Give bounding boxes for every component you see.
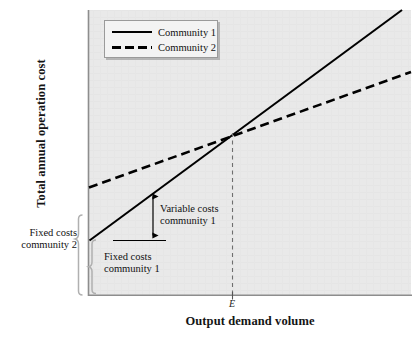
chart-legend: Community 1 Community 2: [104, 20, 218, 58]
annotation-variable-costs-line-1: Variable costs: [160, 203, 219, 215]
legend-item-community-2: Community 2: [112, 40, 216, 54]
annotation-fixed-costs-2-line-1: Fixed costs: [0, 227, 77, 239]
annotation-variable-costs-line-2: community 1: [160, 215, 219, 227]
annotation-fixed-costs-community-2: Fixed costs community 2: [0, 227, 77, 250]
annotation-fixed-costs-community-1: Fixed costs community 1: [104, 251, 160, 274]
legend-swatch-solid-line-icon: [112, 27, 152, 37]
legend-label-community-2: Community 2: [158, 42, 216, 53]
annotation-variable-costs: Variable costs community 1: [160, 203, 219, 226]
annotation-fixed-costs-1-line-2: community 1: [104, 263, 160, 275]
annotation-fixed-costs-2-line-2: community 2: [0, 239, 77, 251]
y-axis-title: Total annual operation cost: [34, 29, 49, 239]
legend-item-community-1: Community 1: [112, 25, 216, 39]
legend-swatch-dashed-line-icon: [112, 42, 152, 52]
x-axis-title: Output demand volume: [88, 314, 412, 329]
break-even-tick-label: E: [218, 298, 246, 309]
legend-label-community-1: Community 1: [158, 27, 216, 38]
annotation-fixed-costs-1-line-1: Fixed costs: [104, 251, 160, 263]
